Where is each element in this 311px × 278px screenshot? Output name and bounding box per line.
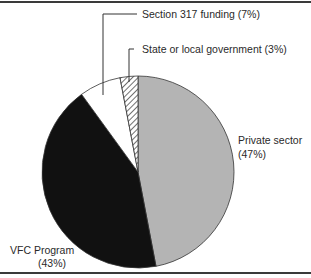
pie-slices [42,76,234,268]
label-state-local: State or local government (3%) [142,43,287,55]
label-private-sector-pct: (47%) [238,148,266,160]
label-private-sector: Private sector [238,134,302,146]
label-vfc-program-pct: (43%) [38,257,66,269]
label-vfc-program: VFC Program [10,244,74,256]
label-section317: Section 317 funding (7%) [142,8,260,20]
pie-slice-private-sector [138,76,234,266]
